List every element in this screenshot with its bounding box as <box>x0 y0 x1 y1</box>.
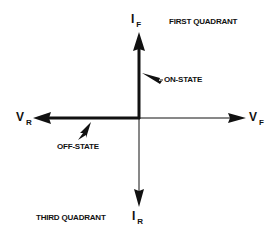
first-quadrant-label: FIRST QUADRANT <box>169 17 237 26</box>
third-quadrant-label: THIRD QUADRANT <box>36 213 106 222</box>
vf-axis-label: VF <box>249 110 264 124</box>
vr-axis-label: VR <box>16 110 32 124</box>
on-state-pointer-icon <box>142 73 162 84</box>
off-state-label: OFF-STATE <box>57 142 99 151</box>
off-state-pointer-icon <box>78 122 91 140</box>
if-arrowhead-icon <box>133 32 145 51</box>
vr-arrowhead-icon <box>33 112 51 124</box>
if-axis-label: IF <box>131 12 141 26</box>
quadrant-diagram <box>0 0 274 236</box>
on-state-label: ON-STATE <box>164 75 202 84</box>
ir-axis-label: IR <box>132 209 143 223</box>
ir-arrowhead-icon <box>134 189 144 207</box>
vf-arrowhead-icon <box>228 113 246 123</box>
